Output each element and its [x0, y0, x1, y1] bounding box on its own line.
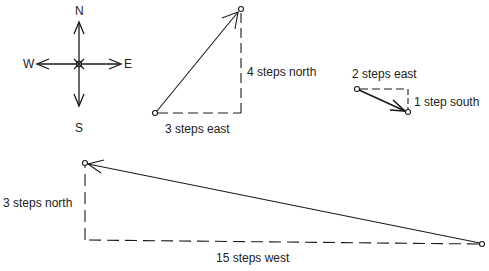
leg-label-south: 1 step south	[414, 96, 479, 108]
compass-rose	[37, 22, 121, 106]
resultant-arrow	[157, 12, 238, 111]
compass-label-north: N	[75, 5, 84, 17]
leg-label-east: 2 steps east	[352, 68, 417, 80]
leg-label-north: 3 steps north	[3, 197, 72, 209]
start-point-icon	[153, 111, 158, 116]
vector-diagram-canvas	[0, 0, 489, 271]
leg-label-east: 3 steps east	[165, 123, 230, 135]
leg-west-dashed	[85, 240, 479, 244]
triangle-3	[83, 160, 485, 247]
resultant-arrow	[88, 164, 480, 243]
resultant-arrow	[359, 90, 405, 111]
compass-label-south: S	[75, 122, 83, 134]
start-point-icon	[480, 242, 485, 247]
end-point-icon	[406, 110, 411, 115]
start-point-icon	[355, 87, 360, 92]
end-point-icon	[83, 161, 88, 166]
leg-label-west: 15 steps west	[216, 252, 289, 264]
triangle-1	[153, 7, 244, 116]
end-point-icon	[239, 7, 244, 12]
leg-label-north: 4 steps north	[247, 66, 316, 78]
compass-label-east: E	[124, 58, 132, 70]
compass-label-west: W	[23, 58, 34, 70]
triangle-2	[355, 87, 411, 115]
